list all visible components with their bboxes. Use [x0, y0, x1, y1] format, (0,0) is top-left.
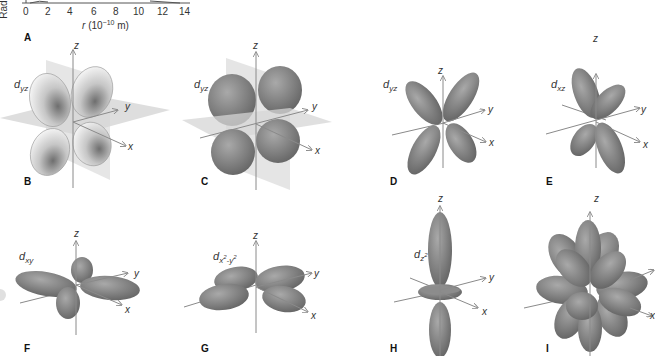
z-axis-label: z: [438, 193, 443, 204]
z-axis-label: z: [74, 228, 79, 239]
x-axis-unit: m): [114, 20, 128, 31]
x-tick: 2: [45, 6, 51, 17]
x-axis-label: x: [125, 304, 130, 315]
z-axis-label: z: [253, 230, 258, 241]
y-axis-label-fragment: Rad: [0, 0, 9, 18]
x-tick: 0: [23, 6, 29, 17]
z-axis-label: z: [594, 193, 599, 204]
orbital-dx2-y2-lobes: [180, 195, 360, 356]
y-axis-label: y: [488, 104, 493, 115]
x-tick: 10: [133, 6, 144, 17]
orbital-dxz-lobes: [510, 30, 654, 190]
orbital-label-dyz: dyz: [383, 78, 397, 93]
orbital-label-dyz: dyz: [194, 78, 208, 93]
panel-label-d: D: [390, 176, 397, 187]
orbital-dz2-lobes: [360, 190, 510, 356]
x-axis-label: x: [650, 310, 655, 321]
panel-label-b: B: [24, 176, 31, 187]
orbital-dyz-solid: [160, 40, 340, 190]
panel-label-e: E: [546, 176, 553, 187]
y-axis-label: y: [134, 268, 139, 279]
orbital-label-dyz: dyz: [14, 78, 28, 93]
panel-label-f: F: [24, 343, 30, 354]
z-axis-label: z: [593, 33, 598, 44]
z-axis-label: z: [74, 40, 79, 51]
y-axis-label: y: [312, 101, 317, 112]
orbital-dyz-cross-section: [0, 40, 170, 190]
orbital-superposition: [500, 190, 654, 356]
orbital-label-dx2-y2: dx2-y2: [213, 250, 236, 265]
y-axis-label: y: [125, 101, 130, 112]
x-axis-label: x: [489, 137, 494, 148]
y-axis-label: y: [489, 272, 494, 283]
z-axis-label: z: [438, 65, 443, 76]
x-axis-exponent: −10: [103, 19, 115, 26]
x-tick: 12: [157, 6, 168, 17]
panel-label-h: H: [390, 343, 397, 354]
x-tick: 4: [67, 6, 73, 17]
x-tick: 8: [113, 6, 119, 17]
orbital-label-dxy: dxy: [19, 250, 33, 265]
orbital-label-dz2: dz2: [414, 248, 427, 263]
x-axis-label: x: [482, 306, 487, 317]
x-axis-label: x: [128, 141, 133, 152]
orbital-dxy-lobes: [0, 195, 180, 356]
x-axis-label: r r (10(10−10 m): [82, 19, 129, 31]
x-axis-label: x: [315, 145, 320, 156]
orbital-dyz-lobes: [360, 40, 520, 190]
z-axis-label: z: [253, 40, 258, 51]
y-axis-label: y: [641, 104, 646, 115]
panel-label-c: C: [201, 176, 208, 187]
x-tick: 6: [91, 6, 97, 17]
x-axis-label: x: [643, 139, 648, 150]
x-axis-label: x: [311, 310, 316, 321]
panel-label-g: G: [201, 343, 209, 354]
x-tick: 14: [179, 6, 190, 17]
orbital-label-dxz: dxz: [551, 78, 565, 93]
panel-label-i: I: [546, 343, 549, 354]
y-axis-label: y: [314, 268, 319, 279]
